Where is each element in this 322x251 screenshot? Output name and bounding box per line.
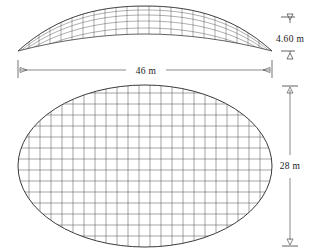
dimension-arrow-down-icon	[282, 239, 298, 246]
elevation-view	[18, 0, 272, 60]
plan-view	[14, 80, 278, 251]
dome-upper-profile	[18, 6, 272, 51]
height-dimension: 4.60 m	[276, 14, 304, 59]
plan-ellipse-outline	[18, 85, 272, 247]
plan-grid-rows	[14, 93, 278, 236]
span-dimension-label: 46 m	[136, 66, 157, 76]
level-arrow-down-icon	[281, 14, 295, 23]
elevation-ribs	[29, 0, 259, 60]
height-dimension-label: 4.60 m	[276, 34, 304, 44]
span-dimension: 46 m	[18, 60, 272, 78]
elevation-gridshell-mesh	[18, 0, 272, 60]
depth-dimension-label: 28 m	[280, 161, 301, 171]
plan-grid-mesh	[14, 80, 278, 251]
depth-dimension: 28 m	[280, 86, 301, 246]
level-arrow-up-icon	[281, 51, 295, 59]
drawing-sheet: 4.60 m 46 m	[0, 0, 322, 251]
plan-grid-columns	[29, 80, 260, 251]
elevation-rings	[18, 6, 272, 59]
technical-drawing-canvas: 4.60 m 46 m	[0, 0, 322, 251]
